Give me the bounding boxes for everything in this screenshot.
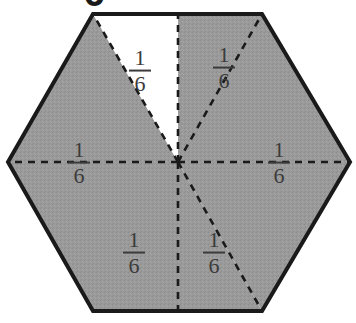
fraction-numerator: 1	[204, 44, 244, 66]
sector-label-top-right: 1 6	[204, 44, 244, 93]
fraction-denominator: 6	[194, 255, 234, 277]
sector-label-right: 1 6	[259, 139, 299, 188]
hexagon-diagram	[0, 0, 356, 323]
fraction-numerator: 1	[59, 139, 99, 161]
sector-label-bottom-right: 1 6	[194, 229, 234, 278]
fraction-numerator: 1	[194, 229, 234, 251]
figure-canvas: 6	[0, 0, 356, 323]
fraction-numerator: 1	[259, 139, 299, 161]
sector-label-bottom-left: 1 6	[114, 229, 154, 278]
fraction-denominator: 6	[204, 70, 244, 92]
fraction-denominator: 6	[120, 73, 160, 95]
fraction-denominator: 6	[114, 255, 154, 277]
fraction-numerator: 1	[120, 47, 160, 69]
fraction-denominator: 6	[259, 165, 299, 187]
sector-label-top-left: 1 6	[120, 47, 160, 96]
fraction-numerator: 1	[114, 229, 154, 251]
fraction-denominator: 6	[59, 165, 99, 187]
sector-label-left: 1 6	[59, 139, 99, 188]
